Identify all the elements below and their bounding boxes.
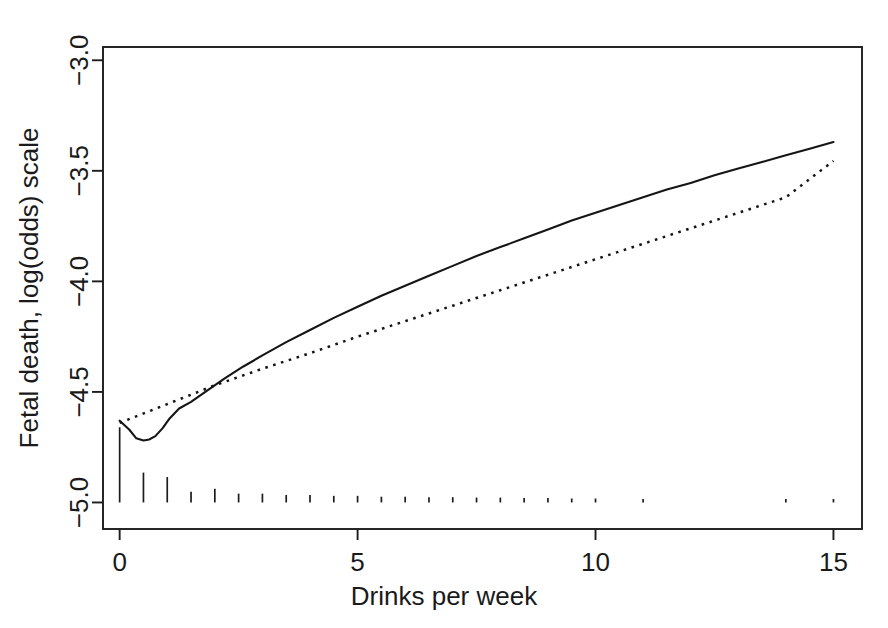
- x-tick-label: 10: [581, 547, 610, 577]
- y-tick-label: −3.5: [64, 145, 94, 196]
- x-tick-label: 0: [112, 547, 126, 577]
- y-axis-title: Fetal death, log(odds) scale: [14, 128, 44, 449]
- y-tick-label: −4.0: [64, 256, 94, 307]
- x-axis-title: Drinks per week: [351, 581, 538, 611]
- y-tick-label: −4.5: [64, 366, 94, 417]
- y-tick-label: −3.0: [64, 35, 94, 86]
- chart-canvas: −3.0−3.5−4.0−4.5−5.0 051015 Fetal death,…: [0, 0, 888, 628]
- x-tick-label: 15: [819, 547, 848, 577]
- chart-background: [0, 0, 888, 628]
- chart-figure: −3.0−3.5−4.0−4.5−5.0 051015 Fetal death,…: [0, 0, 888, 628]
- x-tick-label: 5: [350, 547, 364, 577]
- y-tick-label: −5.0: [64, 477, 94, 528]
